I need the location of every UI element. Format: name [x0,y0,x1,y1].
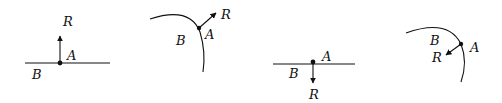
contact-point-dot [58,61,63,66]
contact-point-dot [459,42,463,46]
label-point: A [204,27,214,42]
contact-point-dot [311,60,316,65]
reaction-arrow-outward [199,13,216,28]
reaction-force-diagrams: R A B R A B A B R A B R [0,0,502,103]
label-surface: B [288,66,299,81]
reaction-arrow-inward [446,44,461,55]
panel-curved-in: A B R [406,28,479,82]
label-point: A [321,49,331,64]
label-reaction: R [62,14,73,29]
label-surface: B [429,33,440,48]
label-surface: B [175,33,186,48]
label-point: A [469,40,479,55]
label-reaction: R [220,7,231,22]
panel-curved-out: R A B [150,7,231,72]
label-reaction: R [431,50,442,65]
panel-flat-down: A B R [273,49,355,102]
label-reaction: R [308,87,319,102]
label-point: A [66,48,76,63]
contact-point-dot [197,26,201,30]
label-surface: B [31,67,42,82]
panel-flat-up: R A B [25,14,110,82]
